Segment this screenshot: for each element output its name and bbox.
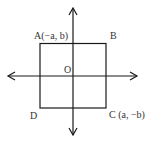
label-point-b: B xyxy=(110,31,117,41)
label-point-a: A(−a, b) xyxy=(34,31,68,41)
coordinate-diagram xyxy=(0,0,149,142)
label-point-d: D xyxy=(30,111,37,121)
label-origin-o: O xyxy=(64,65,71,75)
label-point-c: C (a, −b) xyxy=(109,110,145,120)
